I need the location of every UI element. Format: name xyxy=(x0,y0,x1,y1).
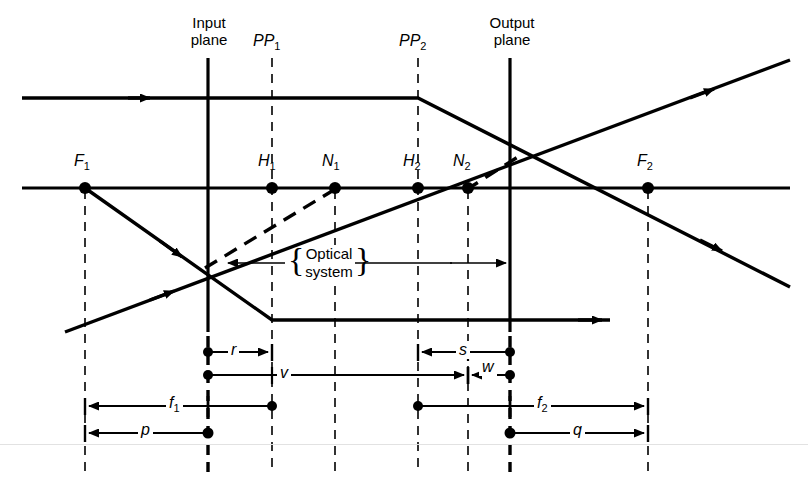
dim-label-r: r xyxy=(228,341,239,359)
dim-label-s: s xyxy=(456,341,470,359)
dimension-f2 xyxy=(413,396,648,417)
dot-F1 xyxy=(79,182,91,194)
optical-system-label-line2: system xyxy=(305,263,353,280)
optical-system-left-brace: { xyxy=(288,243,304,277)
dim-label-w-symbol: w xyxy=(482,358,494,375)
pp1-label: PP1 xyxy=(253,32,280,53)
point-label-N2-sub: 2 xyxy=(465,160,471,172)
input-plane-label-line2: plane xyxy=(191,31,228,48)
nodal-dashed-ray-2 xyxy=(466,153,524,190)
point-label-F1-sub: 1 xyxy=(84,160,90,172)
exit-ray-arrowhead xyxy=(690,89,714,98)
dim-label-p: p xyxy=(138,421,153,439)
point-label-N1: N1 xyxy=(322,152,340,173)
pp1-label-sub: 1 xyxy=(274,40,280,52)
ray-paths xyxy=(22,60,790,332)
pp2-label-text: PP xyxy=(399,32,420,49)
optical-diagram-svg xyxy=(0,0,808,485)
dim-label-f1: f1 xyxy=(166,394,183,415)
dot-F2 xyxy=(642,182,654,194)
dot-N1 xyxy=(329,182,341,194)
point-label-F2-symbol: F xyxy=(637,152,647,169)
dot-N2 xyxy=(462,182,474,194)
point-label-H2-symbol: H xyxy=(403,152,415,169)
input-plane-label-line1: Input xyxy=(192,14,225,31)
dot-H2 xyxy=(412,182,424,194)
point-label-H1: H1 xyxy=(258,152,276,173)
dim-label-p-symbol: p xyxy=(141,421,150,438)
point-label-F1: F1 xyxy=(74,152,90,173)
optical-system-label-line1: Optical xyxy=(306,245,353,262)
pp1-label-text: PP xyxy=(253,32,274,49)
pp2-label-sub: 2 xyxy=(420,40,426,52)
output-plane-label: Output plane xyxy=(471,14,553,49)
point-label-N1-sub: 1 xyxy=(334,160,340,172)
dim-label-f1-sub: 1 xyxy=(173,402,179,414)
optical-system-right-brace: } xyxy=(355,243,371,277)
point-label-N2: N2 xyxy=(453,152,471,173)
dim-label-v-symbol: v xyxy=(280,364,288,381)
point-label-F2-sub: 2 xyxy=(647,160,653,172)
optical-system-label: Optical system xyxy=(303,245,355,281)
point-label-F2: F2 xyxy=(637,152,653,173)
f1-ray-arrowhead xyxy=(160,241,182,257)
dim-label-w: w xyxy=(479,358,497,376)
dim-label-q-symbol: q xyxy=(573,421,582,438)
point-label-H1-sub: 1 xyxy=(270,160,276,172)
dim-label-r-symbol: r xyxy=(231,341,236,358)
output-plane-label-line1: Output xyxy=(489,14,534,31)
pp2-label: PP2 xyxy=(399,32,426,53)
page-rule xyxy=(0,444,808,445)
point-label-F1-symbol: F xyxy=(74,152,84,169)
upper-parallel-ray xyxy=(22,98,790,287)
output-plane-label-line2: plane xyxy=(494,31,531,48)
lower-input-ray-arrowhead xyxy=(150,291,174,300)
point-label-N2-symbol: N xyxy=(453,152,465,169)
dim-label-v: v xyxy=(277,364,291,382)
descending-exit-ray-arrowhead xyxy=(700,240,722,251)
point-label-H2-sub: 2 xyxy=(415,160,421,172)
dim-label-s-symbol: s xyxy=(459,341,467,358)
point-label-H1-symbol: H xyxy=(258,152,270,169)
dim-label-f2: f2 xyxy=(534,394,551,415)
point-label-N1-symbol: N xyxy=(322,152,334,169)
figure-canvas: Input plane PP1 PP2 Output plane F1 H1 N… xyxy=(0,0,808,485)
input-plane-label: Input plane xyxy=(170,14,248,49)
dim-label-q: q xyxy=(570,421,585,439)
dot-H1 xyxy=(266,182,278,194)
point-label-H2: H2 xyxy=(403,152,421,173)
dim-label-f2-sub: 2 xyxy=(541,402,547,414)
